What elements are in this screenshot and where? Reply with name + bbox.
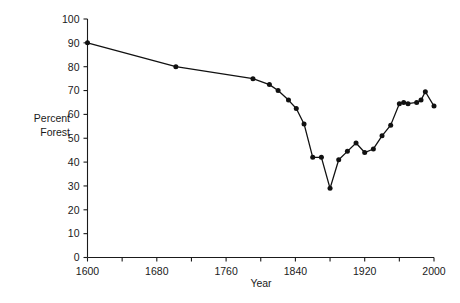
data-point (319, 155, 324, 160)
y-tick-label-100: 100 (62, 13, 80, 25)
y-tick-label-20: 20 (68, 204, 80, 216)
data-point (397, 101, 402, 106)
x-tick-label-1840: 1840 (284, 265, 308, 277)
y-tick-label-10: 10 (68, 227, 80, 239)
data-point (173, 64, 178, 69)
data-point (85, 40, 90, 45)
x-tick-label-1760: 1760 (214, 265, 238, 277)
x-tick-label-1920: 1920 (353, 265, 377, 277)
data-point (423, 89, 428, 94)
chart-figure: 0102030405060708090100 16001680176018401… (0, 0, 460, 303)
data-point (276, 88, 281, 93)
data-point (328, 186, 333, 191)
y-axis-title-line-1: Percent (34, 112, 70, 124)
data-point (310, 155, 315, 160)
data-point (286, 98, 291, 103)
y-tick-label-0: 0 (74, 251, 80, 263)
data-point (401, 100, 406, 105)
data-point (250, 76, 255, 81)
data-point (362, 150, 367, 155)
percent-forest-line-chart: 0102030405060708090100 16001680176018401… (0, 0, 460, 303)
y-tick-label-70: 70 (68, 84, 80, 96)
data-point (294, 106, 299, 111)
data-point (414, 100, 419, 105)
data-point (354, 141, 359, 146)
data-point (336, 157, 341, 162)
data-point (371, 146, 376, 151)
data-point (432, 104, 437, 109)
x-tick-label-1680: 1680 (145, 265, 169, 277)
data-point (419, 98, 424, 103)
data-point (345, 149, 350, 154)
y-tick-label-80: 80 (68, 61, 80, 73)
y-tick-label-90: 90 (68, 37, 80, 49)
y-axis-title-line-2: Forest (40, 126, 70, 138)
data-point (267, 82, 272, 87)
x-axis-title: Year (250, 277, 272, 289)
data-point (388, 123, 393, 128)
x-tick-label-1600: 1600 (76, 265, 100, 277)
y-tick-label-30: 30 (68, 180, 80, 192)
data-point (302, 121, 307, 126)
data-point (380, 133, 385, 138)
x-tick-label-2000: 2000 (422, 265, 446, 277)
y-tick-label-40: 40 (68, 156, 80, 168)
data-point (406, 101, 411, 106)
